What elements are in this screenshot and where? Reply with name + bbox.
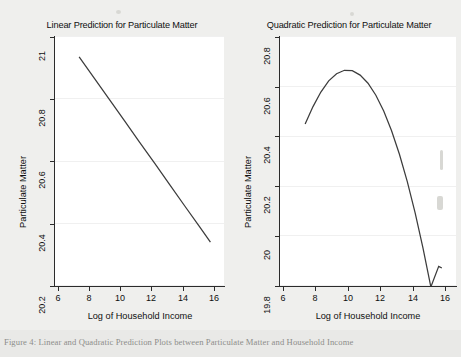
x-axis-line-quadratic [279, 286, 457, 287]
x-tick-mark [315, 287, 316, 291]
paper-speck [440, 150, 443, 170]
x-tick-label: 8 [79, 293, 99, 303]
gridline [55, 98, 224, 99]
y-tick-mark [50, 224, 54, 225]
gridline [55, 161, 224, 162]
paper-speck [437, 196, 443, 210]
y-tick-label: 20.8 [37, 104, 47, 132]
x-tick-mark [151, 287, 152, 291]
y-tick-label: 20.2 [262, 191, 272, 219]
figure-page: Linear Prediction for Particulate Matter… [0, 0, 461, 357]
y-tick-label: 20.4 [262, 141, 272, 169]
gridline [55, 223, 224, 224]
x-axis-label-linear: Log of Household Income [55, 311, 225, 321]
y-tick-label: 20.6 [262, 92, 272, 120]
x-tick-label: 10 [338, 293, 358, 303]
x-tick-mark [348, 287, 349, 291]
y-tick-mark [275, 286, 279, 287]
quadratic-prediction-curve [280, 36, 456, 286]
y-tick-mark [275, 37, 279, 38]
figure-area: Linear Prediction for Particulate Matter… [0, 0, 461, 330]
gridline [280, 36, 456, 37]
y-tick-label: 21 [37, 42, 47, 70]
y-axis-line-quadratic [279, 36, 280, 287]
y-axis-label-quadratic: Particulate Matter [243, 156, 253, 228]
y-tick-mark [50, 286, 54, 287]
x-tick-label: 8 [305, 293, 325, 303]
x-tick-mark [445, 287, 446, 291]
gridline [280, 86, 456, 87]
panel-quadratic-prediction: Quadratic Prediction for Particulate Mat… [231, 0, 461, 330]
y-tick-mark [50, 161, 54, 162]
paper-speck [350, 12, 354, 16]
x-tick-label: 10 [110, 293, 130, 303]
y-tick-mark [50, 99, 54, 100]
gridline [55, 36, 224, 37]
x-axis-label-quadratic: Log of Household Income [280, 311, 456, 321]
panel-title-linear: Linear Prediction for Particulate Matter [0, 20, 230, 30]
x-tick-mark [283, 287, 284, 291]
x-tick-label: 6 [48, 293, 68, 303]
y-tick-mark [275, 136, 279, 137]
x-tick-mark [89, 287, 90, 291]
x-tick-mark [58, 287, 59, 291]
x-tick-label: 14 [173, 293, 193, 303]
y-axis-line-linear [54, 36, 55, 287]
panel-linear-prediction: Linear Prediction for Particulate Matter… [0, 0, 230, 330]
y-tick-mark [275, 186, 279, 187]
paper-speck [116, 10, 121, 14]
x-tick-label: 16 [204, 293, 224, 303]
x-tick-label: 16 [435, 293, 455, 303]
figure-caption: Figure 4: Linear and Quadratic Predictio… [4, 336, 457, 357]
y-tick-mark [50, 37, 54, 38]
x-axis-line-linear [54, 286, 225, 287]
gridline [280, 136, 456, 137]
y-tick-mark [275, 236, 279, 237]
x-tick-label: 12 [370, 293, 390, 303]
y-tick-label: 20 [262, 241, 272, 269]
x-tick-mark [380, 287, 381, 291]
y-tick-label: 20.8 [262, 42, 272, 70]
y-tick-label: 20.4 [37, 229, 47, 257]
x-tick-label: 12 [141, 293, 161, 303]
plot-area-linear [55, 36, 224, 286]
x-tick-label: 14 [403, 293, 423, 303]
y-tick-label: 19.8 [262, 291, 272, 319]
y-tick-mark [275, 87, 279, 88]
gridline [280, 186, 456, 187]
x-tick-mark [214, 287, 215, 291]
x-tick-mark [413, 287, 414, 291]
x-tick-mark [120, 287, 121, 291]
panel-title-quadratic: Quadratic Prediction for Particulate Mat… [231, 20, 461, 30]
plot-area-quadratic [280, 36, 456, 286]
x-tick-label: 6 [273, 293, 293, 303]
y-tick-label: 20.6 [37, 166, 47, 194]
y-axis-label-linear: Particulate Matter [18, 156, 28, 228]
gridline [280, 235, 456, 236]
x-tick-mark [183, 287, 184, 291]
y-tick-label: 20.2 [37, 291, 47, 319]
